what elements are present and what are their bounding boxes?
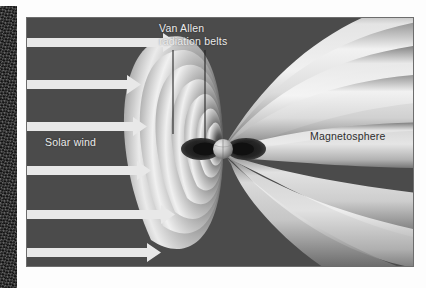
caption-sliver	[100, 0, 330, 10]
label-magnetosphere: Magnetosphere	[310, 130, 386, 143]
label-solar-wind: Solar wind	[45, 136, 96, 149]
magnetosphere-figure-panel: Van Allen radiation belts Solar wind Mag…	[26, 17, 414, 267]
scanned-figure-page: Van Allen radiation belts Solar wind Mag…	[0, 0, 426, 288]
figure-inner: Van Allen radiation belts Solar wind Mag…	[27, 18, 413, 266]
earth-globe	[213, 139, 233, 159]
label-van-allen-radiation-belts: Van Allen radiation belts	[159, 22, 227, 47]
scanned-page-edge	[0, 6, 17, 288]
